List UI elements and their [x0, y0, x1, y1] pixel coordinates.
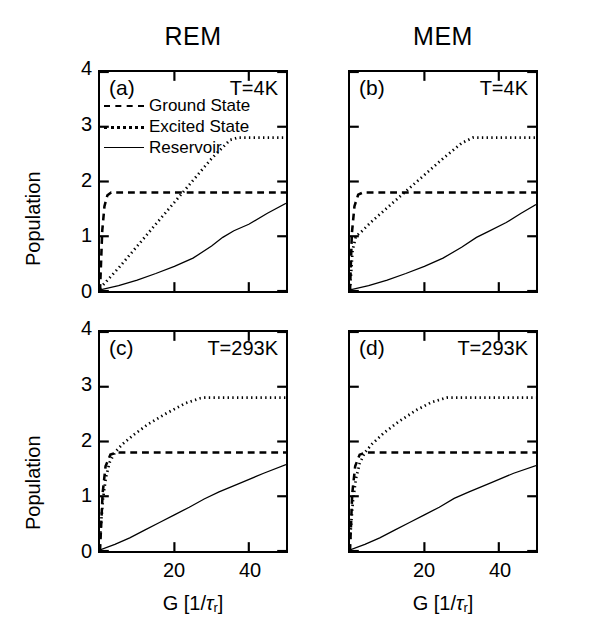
panel-d-temperature: T=293K	[457, 337, 528, 360]
panel-c-plot	[100, 332, 286, 551]
y-tick-label: 3	[62, 373, 92, 396]
series-ground-state	[100, 452, 286, 551]
series-ground-state	[350, 192, 536, 291]
series-reservoir	[350, 204, 536, 289]
y-tick-label: 3	[62, 113, 92, 136]
column-title-mem: MEM	[348, 22, 538, 51]
y-tick-label: 1	[62, 224, 92, 247]
panel-d-plot	[350, 332, 536, 551]
series-reservoir	[100, 203, 286, 290]
y-axis-label-top: Population	[22, 171, 45, 266]
column-title-rem: REM	[98, 22, 288, 51]
panel-d-tag: (d)	[359, 336, 385, 360]
x-tick-label: 20	[154, 559, 194, 582]
legend-label-excited-state: Excited State	[149, 117, 249, 137]
x-axis-label-left: G [1/τr]	[98, 592, 288, 615]
series-excited-state	[100, 138, 286, 289]
legend-key-solid-icon	[104, 147, 144, 148]
panel-b-temperature: T=4K	[480, 77, 528, 100]
x-axis-label-right-text: G [1/τr]	[413, 592, 474, 614]
legend-key-dashed-icon	[104, 105, 144, 107]
series-ground-state	[350, 452, 536, 551]
legend-item-excited-state: Excited State	[104, 117, 284, 138]
tau-subscript: r	[463, 600, 467, 615]
legend-label-reservoir: Reservoir	[149, 138, 222, 158]
x-tick-label: 20	[404, 559, 444, 582]
tau-subscript: r	[213, 600, 217, 615]
y-tick-label: 1	[62, 484, 92, 507]
legend-item-reservoir: Reservoir	[104, 138, 284, 159]
x-axis-label-right: G [1/τr]	[348, 592, 538, 615]
panel-c-tag: (c)	[109, 336, 134, 360]
panel-b-plot	[350, 72, 536, 291]
y-tick-label: 0	[62, 540, 92, 563]
legend-item-ground-state: Ground State	[104, 96, 284, 117]
y-axis-label-bottom: Population	[22, 435, 45, 530]
series-reservoir	[100, 464, 286, 549]
y-tick-label: 4	[62, 57, 92, 80]
y-tick-label: 2	[62, 169, 92, 192]
panel-c-temperature: T=293K	[207, 337, 278, 360]
x-tick-label: 40	[230, 559, 270, 582]
panel-d: (d) T=293K	[348, 330, 538, 553]
series-excited-state	[350, 138, 536, 290]
series-reservoir	[350, 466, 536, 550]
y-tick-label: 4	[62, 317, 92, 340]
x-axis-label-left-text: G [1/τr]	[163, 592, 224, 614]
x-tick-label: 40	[480, 559, 520, 582]
y-tick-label: 2	[62, 429, 92, 452]
panel-b: (b) T=4K	[348, 70, 538, 293]
panel-b-tag: (b)	[359, 76, 385, 100]
series-ground-state	[100, 192, 286, 291]
series-excited-state	[100, 398, 286, 538]
figure-root: REM MEM Population Population G [1/τr] G…	[0, 0, 598, 643]
legend: Ground State Excited State Reservoir	[104, 96, 284, 159]
series-excited-state	[350, 398, 536, 539]
legend-label-ground-state: Ground State	[149, 96, 250, 116]
panel-c: (c) T=293K	[98, 330, 288, 553]
legend-key-dotted-icon	[104, 126, 144, 129]
y-tick-label: 0	[62, 280, 92, 303]
